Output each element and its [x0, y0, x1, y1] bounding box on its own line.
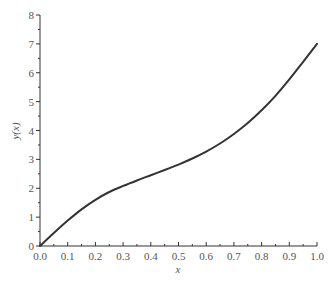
- x-tick-label: 0.8: [255, 250, 269, 262]
- y-tick-label: 5: [29, 96, 35, 108]
- y-axis-label: y(x): [9, 122, 22, 140]
- x-tick-label: 0.2: [89, 250, 103, 262]
- y-tick-label: 7: [29, 38, 35, 50]
- y-axis-ticks: 012345678: [29, 9, 41, 252]
- x-tick-label: 0.3: [116, 250, 130, 262]
- y-tick-label: 1: [29, 211, 35, 223]
- y-tick-label: 2: [29, 182, 35, 194]
- axes: [40, 15, 317, 246]
- x-axis-label: x: [175, 263, 181, 275]
- y-tick-label: 3: [29, 153, 35, 165]
- x-axis-ticks: 0.00.10.20.30.40.50.60.70.80.91.0: [33, 242, 324, 262]
- data-series-line: [40, 44, 317, 246]
- x-tick-label: 1.0: [310, 250, 324, 262]
- x-tick-label: 0.7: [227, 250, 241, 262]
- line-chart: 012345678 0.00.10.20.30.40.50.60.70.80.9…: [0, 0, 336, 283]
- x-tick-label: 0.1: [61, 250, 75, 262]
- y-tick-label: 8: [29, 9, 35, 21]
- y-tick-label: 4: [29, 125, 35, 137]
- y-tick-label: 6: [29, 67, 35, 79]
- x-tick-label: 0.4: [144, 250, 158, 262]
- x-tick-label: 0.0: [33, 250, 47, 262]
- x-tick-label: 0.5: [172, 250, 186, 262]
- x-tick-label: 0.9: [282, 250, 296, 262]
- x-tick-label: 0.6: [199, 250, 213, 262]
